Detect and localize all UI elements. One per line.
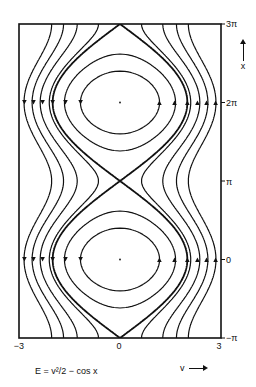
v-tick-label-3: 3 [209,341,229,351]
v-tick-label-neg3: −3 [9,341,29,351]
y-tick-label-pi: π [226,177,232,187]
open-orbit [142,24,191,338]
x-axis-indicator: x [238,43,248,71]
open-orbit [40,24,77,338]
up-arrow-icon [195,100,200,105]
down-arrow-icon [40,100,45,105]
open-orbit [24,24,51,338]
x-axis-label: x [238,61,248,71]
down-arrow-icon [22,100,27,105]
up-arrow-icon [185,100,190,105]
phase-curves [24,24,216,338]
down-arrow-icon [50,257,55,262]
up-arrow-icon [172,258,177,263]
up-arrow-icon [213,100,218,105]
v-axis-label: v [180,363,185,373]
open-orbit [163,24,200,338]
phase-portrait-plot [0,0,256,387]
separatrix [120,24,187,338]
up-arrow-icon [195,258,200,263]
v-tick-label-0: 0 [109,341,129,351]
open-orbit [32,24,63,338]
up-arrow-icon [157,258,162,263]
down-arrow-icon [63,257,68,262]
down-arrow-icon [50,100,55,105]
down-arrow-icon [40,257,45,262]
down-arrow-icon [78,100,83,105]
fixed-point [119,102,121,104]
open-orbit [49,24,98,338]
down-arrow-icon [78,257,83,262]
up-arrow-icon [243,43,244,61]
v-axis-indicator: v [180,363,205,373]
energy-formula: E = v²/2 − cos x [35,366,98,376]
fixed-point [119,259,121,261]
separatrix [53,24,120,338]
up-arrow-icon [213,258,218,263]
up-arrow-icon [157,100,162,105]
open-orbit [188,24,216,338]
down-arrow-icon [22,257,27,262]
y-tick-label-2pi: 2π [226,98,237,108]
y-tick-label-3pi: 3π [226,19,237,29]
up-arrow-icon [185,258,190,263]
y-tick-label-0: 0 [226,255,231,265]
down-arrow-icon [63,100,68,105]
right-arrow-icon [189,368,205,369]
up-arrow-icon [172,100,177,105]
open-orbit [177,24,208,338]
